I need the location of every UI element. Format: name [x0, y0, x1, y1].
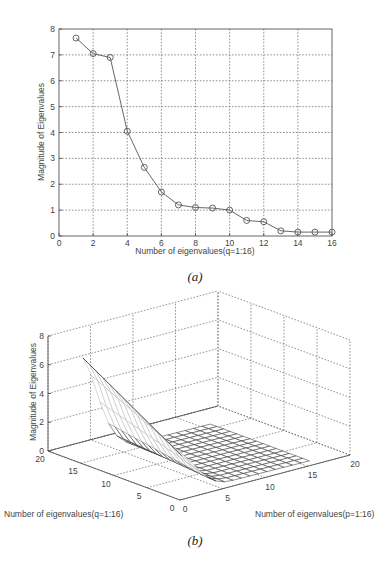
- chart-b-mesh-cell: [111, 393, 126, 421]
- chart-b-mesh-cell: [208, 447, 223, 452]
- chart-b-axes: [48, 336, 350, 500]
- chart-b-mesh-cell: [268, 449, 283, 454]
- chart-b-mesh-cell: [266, 453, 281, 458]
- chart-a-y-ticks: 012345678: [50, 24, 62, 241]
- chart-b-mesh-cell: [209, 443, 224, 448]
- chart-b-mesh-cell: [154, 449, 169, 453]
- chart-b-mesh-cell: [247, 462, 262, 467]
- chart-b-mesh-cell: [205, 473, 220, 476]
- chart-b-mesh-cell: [216, 445, 231, 450]
- chart-b-mesh-cell: [279, 458, 294, 463]
- chart-b-mesh-cell: [226, 438, 241, 443]
- chart-b-mesh-cell: [159, 443, 174, 459]
- chart-b-q-axis: [48, 451, 180, 500]
- chart-b-mesh-cell: [181, 438, 196, 443]
- chart-a-y-tick-label: 7: [50, 50, 55, 60]
- chart-b-mesh-cell: [220, 436, 235, 441]
- chart-b-mesh-cell: [260, 467, 275, 472]
- chart-a-eigenvalue-line-plot: 012345678 0246810121416 Number of eigenv…: [0, 0, 388, 290]
- chart-b-mesh-cell: [141, 441, 156, 454]
- chart-b-mesh-cell: [194, 443, 209, 448]
- chart-a-series-line: [76, 38, 332, 232]
- chart-b-mesh-cell: [196, 438, 211, 443]
- chart-b-mesh-cell: [117, 436, 132, 444]
- chart-b-floor-grid: [147, 443, 317, 488]
- chart-b-mesh-cell: [137, 445, 152, 452]
- chart-b-mesh-cell: [107, 406, 122, 430]
- chart-b-mesh-cell: [167, 454, 182, 458]
- chart-b-q-tick-label: 15: [68, 466, 78, 476]
- chart-b-mesh-cell: [202, 461, 217, 466]
- chart-b-mesh-cell: [175, 451, 190, 456]
- chart-b-mesh-cell: [160, 451, 175, 455]
- chart-b-mesh-cell: [128, 434, 143, 448]
- chart-b-mesh-cell: [191, 452, 206, 457]
- chart-b-q-tick-label: 0: [170, 503, 175, 513]
- chart-b-mesh-cell: [124, 439, 139, 447]
- chart-b-mesh-cell: [241, 460, 256, 465]
- chart-b-mesh-cell: [203, 440, 218, 445]
- chart-b-mesh-cell: [176, 463, 191, 468]
- chart-b-floor-grid: [48, 406, 218, 451]
- chart-b-floor-grid: [218, 406, 350, 455]
- chart-b-mesh-cell: [192, 447, 207, 452]
- chart-b-mesh-cell: [198, 470, 213, 473]
- chart-b-mesh-cell: [188, 467, 203, 475]
- chart-b-back-wall-grid: [48, 349, 218, 394]
- chart-b-mesh-cell: [187, 461, 202, 466]
- chart-b-mesh-cell: [186, 461, 201, 473]
- chart-b-mesh-cell: [231, 446, 246, 451]
- chart-b-floor-grid: [114, 431, 284, 476]
- chart-a-y-tick-label: 5: [50, 102, 55, 112]
- chart-b-mesh-cell: [83, 358, 98, 381]
- chart-b-floor-grid: [48, 451, 180, 500]
- chart-b-mesh-cell: [240, 443, 255, 448]
- chart-b-mesh-cell: [236, 453, 251, 458]
- chart-b-mesh-cell: [136, 410, 151, 427]
- chart-b-mesh-cell: [193, 463, 208, 468]
- chart-b-mesh-cell: [178, 463, 193, 466]
- chart-b-mesh-cell: [234, 457, 249, 462]
- chart-b-mesh-surface: [83, 358, 310, 482]
- chart-b-mesh-cell: [192, 466, 207, 478]
- chart-b-floor-grid: [133, 429, 265, 478]
- chart-b-mesh-cell: [171, 444, 186, 449]
- chart-a-y-tick-label: 1: [50, 205, 55, 215]
- chart-b-mesh-cell: [131, 410, 146, 434]
- chart-b-floor-grid: [91, 440, 223, 489]
- chart-b-mesh-cell: [153, 438, 168, 455]
- chart-b-mesh-cell: [221, 452, 236, 457]
- chart-b-mesh-cell: [163, 457, 178, 463]
- chart-b-mesh-cell: [149, 423, 164, 438]
- chart-b-mesh-cell: [91, 375, 106, 406]
- chart-b-mesh-cell: [215, 429, 230, 434]
- chart-b-mesh-cell: [226, 476, 241, 481]
- chart-b-mesh-cell: [212, 454, 227, 459]
- chart-b-mesh-cell: [116, 391, 131, 410]
- chart-b-mesh-cell: [155, 448, 170, 459]
- chart-b-mesh-cell: [157, 433, 172, 452]
- chart-b-floor-grid: [81, 418, 251, 463]
- chart-a-x-tick-label: 4: [125, 238, 130, 248]
- chart-b-mesh-cell: [271, 460, 286, 465]
- chart-b-mesh-cell: [177, 447, 192, 452]
- chart-b-mesh-cell: [215, 466, 230, 471]
- chart-b-mesh-cell: [192, 431, 207, 436]
- chart-b-mesh-cell: [180, 459, 195, 464]
- chart-b-side-wall-grid: [218, 377, 350, 426]
- chart-b-mesh-cell: [252, 469, 267, 474]
- chart-b-mesh-cell: [152, 452, 167, 455]
- chart-b-mesh-cell: [207, 431, 222, 436]
- chart-a-x-tick-label: 12: [259, 238, 269, 248]
- chart-a-y-tick-label: 4: [50, 128, 55, 138]
- chart-b-side-wall-grid: [218, 349, 350, 398]
- chart-b-mesh-cell: [126, 420, 141, 441]
- chart-b-mesh-cell: [222, 431, 237, 436]
- chart-b-mesh-cell: [161, 452, 176, 463]
- chart-b-mesh-cell: [253, 448, 268, 453]
- chart-b-mesh-cell: [142, 439, 157, 444]
- chart-b-mesh-cell: [269, 465, 284, 470]
- chart-b-back-edge: [48, 406, 218, 451]
- chart-b-z-tick-label: 8: [39, 331, 44, 341]
- chart-b-mesh-cell: [196, 472, 211, 476]
